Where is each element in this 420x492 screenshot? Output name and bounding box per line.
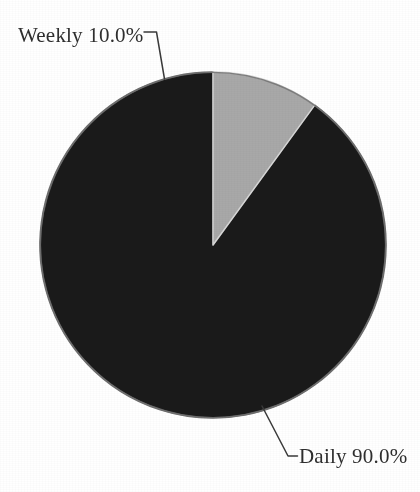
pie-label-weekly: Weekly 10.0% — [18, 25, 144, 46]
daily-leader-line-icon — [262, 406, 298, 456]
pie-label-daily: Daily 90.0% — [299, 446, 407, 467]
pie-chart-figure: Weekly 10.0% Daily 90.0% — [0, 0, 420, 492]
pie-chart-canvas — [0, 0, 420, 492]
weekly-leader-line-icon — [144, 32, 165, 79]
